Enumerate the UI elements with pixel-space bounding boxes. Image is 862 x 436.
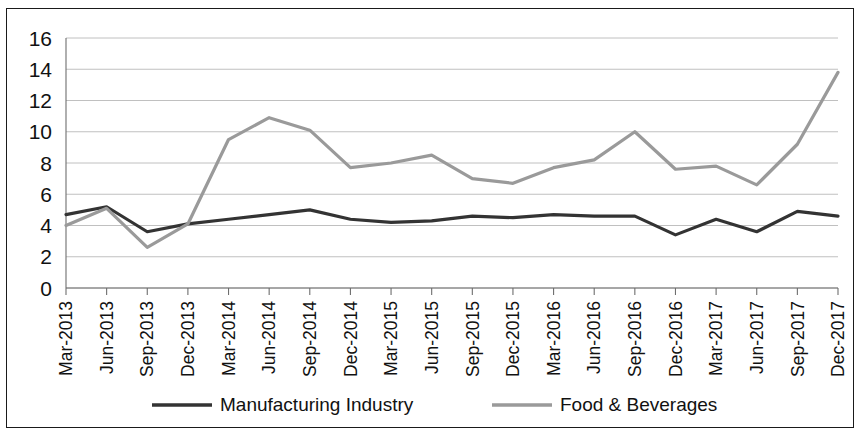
y-axis-tick-label: 2 xyxy=(40,245,52,268)
x-axis-tick-label: Mar-2017 xyxy=(706,301,726,376)
x-axis-tick-label: Jun-2015 xyxy=(422,301,442,374)
legend-label-1: Manufacturing Industry xyxy=(220,394,414,415)
x-axis-tick-label: Dec-2015 xyxy=(503,301,523,377)
y-axis-tick-label: 12 xyxy=(29,89,52,112)
x-axis-tick-label: Sep-2015 xyxy=(463,301,483,377)
x-axis-tick-label: Jun-2016 xyxy=(584,301,604,374)
x-axis-tick-label: Sep-2013 xyxy=(137,301,157,377)
y-axis-tick-label: 0 xyxy=(40,277,52,300)
y-axis-tick-label: 6 xyxy=(40,183,52,206)
x-axis-tick-label: Dec-2017 xyxy=(828,301,848,377)
line-chart-canvas: 0246810121416Mar-2013Jun-2013Sep-2013Dec… xyxy=(0,0,862,436)
y-axis-tick-label: 14 xyxy=(29,58,53,81)
x-axis-tick-label: Sep-2016 xyxy=(625,301,645,377)
x-axis-tick-label: Jun-2017 xyxy=(747,301,767,374)
x-axis-tick-label: Dec-2014 xyxy=(341,301,361,377)
x-axis-tick-label: Sep-2014 xyxy=(300,301,320,377)
chart-figure: 0246810121416Mar-2013Jun-2013Sep-2013Dec… xyxy=(0,0,862,436)
x-axis-tick-label: Dec-2013 xyxy=(178,301,198,377)
x-axis-tick-label: Jun-2013 xyxy=(97,301,117,374)
x-axis-tick-label: Mar-2013 xyxy=(56,301,76,376)
x-axis-tick-label: Jun-2014 xyxy=(259,301,279,374)
y-axis-tick-label: 8 xyxy=(40,152,52,175)
series-line-1 xyxy=(66,207,838,235)
x-axis-tick-label: Mar-2014 xyxy=(219,301,239,376)
legend-label-2: Food & Beverages xyxy=(560,394,717,415)
y-axis-tick-label: 4 xyxy=(40,214,52,237)
y-axis-tick-label: 10 xyxy=(29,120,52,143)
y-axis-tick-label: 16 xyxy=(29,27,52,50)
x-axis-tick-label: Mar-2015 xyxy=(381,301,401,376)
x-axis-tick-label: Dec-2016 xyxy=(666,301,686,377)
x-axis-tick-label: Sep-2017 xyxy=(788,301,808,377)
x-axis-tick-label: Mar-2016 xyxy=(544,301,564,376)
